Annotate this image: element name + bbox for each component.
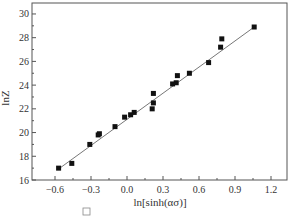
data-point bbox=[132, 110, 137, 115]
data-point bbox=[252, 25, 257, 30]
x-tick-label: 0.6 bbox=[193, 184, 206, 195]
data-point bbox=[206, 60, 211, 65]
y-tick-label: 30 bbox=[19, 8, 29, 19]
y-tick-label: 26 bbox=[19, 56, 29, 67]
data-point bbox=[87, 142, 92, 147]
x-axis-ticks: −0.6−0.30.00.30.60.91.2 bbox=[46, 176, 277, 195]
data-point bbox=[219, 36, 224, 41]
data-point bbox=[175, 73, 180, 78]
scatter-chart: 1618202224262830 −0.6−0.30.00.30.60.91.2… bbox=[0, 0, 290, 217]
data-point bbox=[122, 115, 127, 120]
data-point bbox=[69, 161, 74, 166]
data-point bbox=[151, 91, 156, 96]
y-tick-label: 18 bbox=[19, 151, 29, 162]
y-axis-label: lnZ bbox=[0, 90, 11, 106]
data-point bbox=[150, 106, 155, 111]
data-point bbox=[174, 80, 179, 85]
y-tick-label: 22 bbox=[19, 103, 29, 114]
x-axis-label: ln[sinh(ασ)] bbox=[133, 196, 186, 209]
cropped-glyph bbox=[83, 208, 90, 215]
x-tick-label: −0.6 bbox=[46, 184, 64, 195]
data-point bbox=[187, 71, 192, 76]
data-point bbox=[97, 131, 102, 136]
x-tick-label: 0.9 bbox=[229, 184, 242, 195]
data-point bbox=[151, 100, 156, 105]
y-tick-label: 24 bbox=[19, 80, 29, 91]
fit-line bbox=[60, 27, 254, 168]
plot-frame bbox=[32, 3, 287, 180]
y-axis-ticks: 1618202224262830 bbox=[19, 8, 36, 185]
y-tick-label: 20 bbox=[19, 127, 29, 138]
x-tick-label: 0.3 bbox=[157, 184, 170, 195]
data-point bbox=[56, 166, 61, 171]
x-tick-label: 1.2 bbox=[265, 184, 278, 195]
data-point bbox=[218, 45, 223, 50]
x-tick-label: 0.0 bbox=[121, 184, 134, 195]
y-tick-label: 28 bbox=[19, 32, 29, 43]
x-tick-label: −0.3 bbox=[82, 184, 100, 195]
y-tick-label: 16 bbox=[19, 175, 29, 186]
data-point bbox=[113, 124, 118, 129]
